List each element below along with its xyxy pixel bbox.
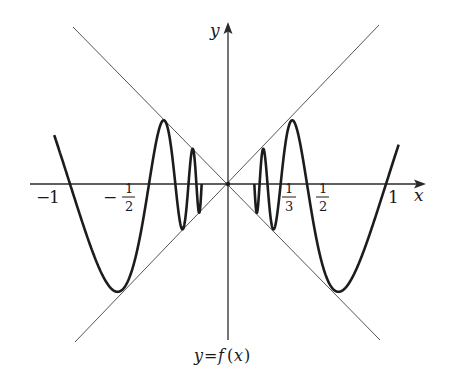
svg-text:(: (	[227, 346, 233, 365]
svg-text:): )	[244, 346, 250, 365]
svg-text:x: x	[234, 346, 243, 365]
svg-text:1: 1	[125, 181, 133, 196]
svg-text:−: −	[103, 187, 117, 207]
svg-text:y: y	[193, 346, 204, 365]
svg-text:1: 1	[388, 187, 399, 207]
svg-text:2: 2	[319, 199, 327, 214]
function-plot: y x − 1 − 1 2 1 3 1 2 1 y = f ( x )	[0, 0, 451, 383]
origin-point	[226, 182, 230, 186]
svg-text:3: 3	[285, 199, 293, 214]
tick-label-one-third: 1 3	[282, 181, 296, 214]
tick-label-one: 1	[388, 187, 399, 207]
svg-text:=: =	[204, 346, 217, 365]
x-axis-label: x	[414, 185, 424, 205]
tick-label-neg-one: − 1	[36, 187, 60, 207]
tick-label-one-half: 1 2	[316, 181, 329, 214]
svg-text:1: 1	[49, 187, 60, 207]
svg-text:f: f	[217, 346, 227, 365]
svg-text:2: 2	[125, 199, 133, 214]
svg-text:1: 1	[319, 181, 327, 196]
tick-label-neg-half: − 1 2	[103, 181, 135, 214]
function-label: y = f ( x )	[193, 346, 250, 365]
y-axis-label: y	[209, 20, 220, 40]
svg-text:1: 1	[285, 181, 293, 196]
